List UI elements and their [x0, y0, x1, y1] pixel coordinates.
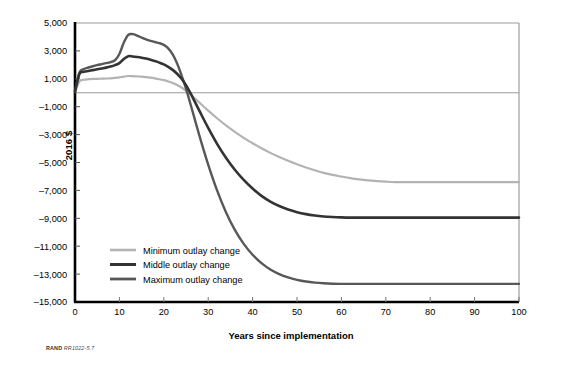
x-tick-label: 80: [425, 307, 435, 317]
x-tick-label: 40: [247, 307, 257, 317]
chart-legend: Minimum outlay changeMiddle outlay chang…: [110, 246, 243, 285]
y-axis-label: 2016 $: [63, 76, 74, 216]
legend-label: Maximum outlay change: [143, 275, 243, 285]
source-prefix: RAND: [46, 345, 62, 351]
x-axis-label: Years since implementation: [62, 330, 520, 341]
series-line: [75, 56, 519, 218]
x-tick-label: 90: [469, 307, 479, 317]
plot-frame: [74, 22, 519, 302]
series-line: [75, 76, 519, 182]
x-tick-label: 30: [203, 307, 213, 317]
x-tick-label: 10: [114, 307, 124, 317]
y-tick-label: –13,000: [34, 270, 67, 280]
x-tick-label: 70: [381, 307, 391, 317]
line-chart: 5,0003,0001,000–1,000–3,000–5,000–7,000–…: [0, 0, 565, 366]
x-tick-label: 20: [159, 307, 169, 317]
y-tick-label: 3,000: [44, 46, 67, 56]
y-tick-label: –15,000: [34, 297, 67, 307]
x-axis-ticks: 0102030405060708090100: [72, 297, 526, 317]
source-id: RR1022-5.7: [64, 345, 95, 351]
source-note: RAND RR1022-5.7: [46, 345, 94, 351]
legend-label: Minimum outlay change: [143, 246, 240, 256]
x-tick-label: 100: [511, 307, 526, 317]
data-series-group: [75, 34, 519, 284]
series-line: [75, 34, 519, 284]
x-tick-label: 60: [336, 307, 346, 317]
figure-container: 2016 $ Years since implementation 5,0003…: [0, 0, 565, 366]
x-tick-label: 0: [72, 307, 77, 317]
legend-label: Middle outlay change: [143, 260, 230, 270]
x-tick-label: 50: [292, 307, 302, 317]
y-tick-label: –11,000: [34, 242, 67, 252]
y-tick-label: 5,000: [44, 18, 67, 28]
